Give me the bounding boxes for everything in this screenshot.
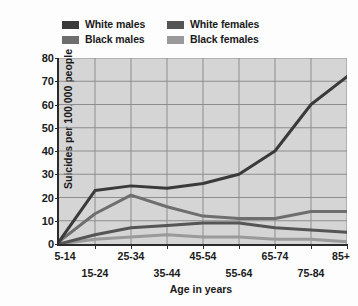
y-tick-mark bbox=[55, 128, 59, 129]
chart-figure: White males White females Black males Bl… bbox=[0, 0, 358, 306]
legend-label-black-males: Black males bbox=[85, 34, 145, 45]
y-tick-mark bbox=[55, 174, 59, 175]
x-tick-label: 45-54 bbox=[190, 250, 217, 262]
plot-area: Suicides per 100,000 people 010203040506… bbox=[57, 58, 347, 246]
y-tick-label: 10 bbox=[42, 215, 54, 227]
chart-legend: White males White females Black males Bl… bbox=[62, 17, 292, 47]
y-tick-label: 0 bbox=[48, 238, 54, 250]
x-tick-mark bbox=[239, 244, 240, 249]
legend-label-white-females: White females bbox=[190, 19, 259, 30]
y-tick-label: 20 bbox=[42, 192, 54, 204]
legend-swatch-black-females bbox=[167, 36, 184, 44]
x-tick-mark bbox=[311, 244, 312, 249]
legend-label-white-males: White males bbox=[85, 19, 145, 30]
y-tick-mark bbox=[55, 105, 59, 106]
legend-item-white-females: White females bbox=[167, 19, 292, 30]
y-tick-mark bbox=[55, 198, 59, 199]
legend-label-black-females: Black females bbox=[190, 34, 259, 45]
y-tick-mark bbox=[55, 151, 59, 152]
legend-item-black-males: Black males bbox=[62, 34, 167, 45]
x-tick-label: 15-24 bbox=[82, 267, 109, 279]
y-tick-label: 50 bbox=[42, 122, 54, 134]
chart-canvas bbox=[59, 58, 347, 244]
x-tick-mark bbox=[275, 244, 276, 249]
x-tick-mark bbox=[167, 244, 168, 249]
y-tick-label: 40 bbox=[42, 145, 54, 157]
y-tick-mark bbox=[55, 81, 59, 82]
x-tick-label: 55-64 bbox=[226, 267, 253, 279]
x-tick-label: 65-74 bbox=[262, 250, 289, 262]
x-tick-label: 25-34 bbox=[118, 250, 145, 262]
x-tick-mark bbox=[347, 244, 348, 249]
y-tick-mark bbox=[55, 244, 59, 245]
x-tick-mark bbox=[131, 244, 132, 249]
legend-swatch-white-females bbox=[167, 21, 184, 29]
legend-item-black-females: Black females bbox=[167, 34, 292, 45]
x-tick-label: 75-84 bbox=[298, 267, 325, 279]
x-axis-title: Age in years bbox=[57, 283, 345, 295]
x-tick-label: 5-14 bbox=[54, 250, 75, 262]
y-tick-label: 30 bbox=[42, 168, 54, 180]
x-tick-mark bbox=[95, 244, 96, 249]
x-tick-label: 85+ bbox=[332, 250, 350, 262]
x-tick-label: 35-44 bbox=[154, 267, 181, 279]
y-tick-mark bbox=[55, 58, 59, 59]
y-tick-label: 60 bbox=[42, 99, 54, 111]
x-tick-mark bbox=[203, 244, 204, 249]
legend-item-white-males: White males bbox=[62, 19, 167, 30]
y-tick-label: 80 bbox=[42, 52, 54, 64]
y-tick-label: 70 bbox=[42, 75, 54, 87]
y-tick-mark bbox=[55, 221, 59, 222]
